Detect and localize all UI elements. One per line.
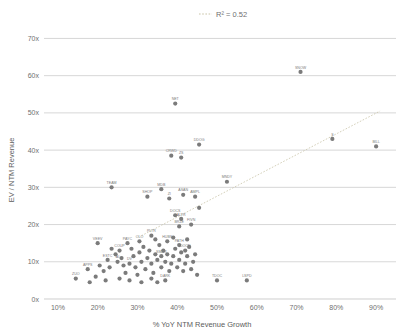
data-point[interactable]: [137, 250, 141, 254]
data-point[interactable]: [165, 239, 169, 243]
chart-canvas: 0x10x20x30x40x50x60x70x 10%20%30%40%50%6…: [0, 0, 404, 335]
data-point[interactable]: [108, 265, 112, 269]
data-point[interactable]: [159, 265, 163, 269]
data-point[interactable]: [169, 154, 173, 158]
data-point[interactable]: [151, 271, 155, 275]
x-axis-ticks: 10%20%30%40%50%60%70%80%90%: [51, 304, 383, 311]
data-point[interactable]: [137, 239, 141, 243]
data-point[interactable]: [195, 273, 199, 277]
data-point[interactable]: [169, 262, 173, 266]
data-point[interactable]: [374, 144, 378, 148]
data-point[interactable]: [298, 70, 302, 74]
data-point-label: MDB: [157, 183, 166, 187]
data-point[interactable]: [183, 249, 187, 253]
data-point[interactable]: [153, 252, 157, 256]
data-point[interactable]: [159, 187, 163, 191]
data-point[interactable]: [143, 267, 147, 271]
data-point[interactable]: [147, 249, 151, 253]
data-point[interactable]: [171, 254, 175, 258]
data-point[interactable]: [127, 262, 131, 266]
data-point[interactable]: [159, 254, 163, 258]
data-point[interactable]: [117, 249, 121, 253]
data-point[interactable]: [149, 262, 153, 266]
data-point[interactable]: [197, 206, 201, 210]
data-point-label: DARK: [160, 274, 171, 278]
grid-lines: [44, 38, 396, 299]
data-point[interactable]: [179, 155, 183, 159]
data-point[interactable]: [133, 265, 137, 269]
data-point[interactable]: [153, 237, 157, 241]
data-point[interactable]: [121, 263, 125, 267]
data-point[interactable]: [98, 263, 102, 267]
data-point[interactable]: [88, 280, 92, 284]
data-point-label: VEEV: [93, 237, 103, 241]
data-point[interactable]: [141, 245, 145, 249]
data-point-label: PLTR: [147, 229, 156, 233]
data-point[interactable]: [225, 180, 229, 184]
data-point[interactable]: [165, 252, 169, 256]
data-point[interactable]: [191, 260, 195, 264]
trendline: [141, 111, 380, 236]
data-point[interactable]: [106, 258, 110, 262]
data-point[interactable]: [102, 269, 106, 273]
y-tick-label: 60x: [28, 72, 40, 79]
data-point[interactable]: [149, 234, 153, 238]
data-point[interactable]: [145, 195, 149, 199]
data-point[interactable]: [175, 265, 179, 269]
data-point[interactable]: [145, 256, 149, 260]
data-point[interactable]: [167, 269, 171, 273]
data-point[interactable]: [149, 276, 153, 280]
data-point[interactable]: [155, 258, 159, 262]
data-point[interactable]: [245, 278, 249, 282]
data-point[interactable]: [185, 237, 189, 241]
data-point[interactable]: [197, 142, 201, 146]
data-point[interactable]: [127, 278, 131, 282]
data-point-label: COUP: [114, 244, 125, 248]
data-point[interactable]: [94, 275, 98, 279]
data-point[interactable]: [189, 267, 193, 271]
data-point[interactable]: [123, 271, 127, 275]
data-point[interactable]: [330, 137, 334, 141]
data-point-label: ASAN: [178, 188, 188, 192]
data-point[interactable]: [189, 222, 193, 226]
data-point[interactable]: [115, 260, 119, 264]
data-point[interactable]: [139, 280, 143, 284]
data-point-label: MNDY: [222, 175, 233, 179]
data-point[interactable]: [135, 273, 139, 277]
data-point[interactable]: [163, 278, 167, 282]
data-point[interactable]: [139, 260, 143, 264]
y-axis-title: EV / NTM Revenue: [7, 138, 16, 203]
data-point[interactable]: [179, 250, 183, 254]
data-point[interactable]: [181, 193, 185, 197]
data-point[interactable]: [96, 241, 100, 245]
data-point[interactable]: [125, 241, 129, 245]
data-point[interactable]: [86, 267, 90, 271]
data-point-label: PAYC: [123, 237, 133, 241]
data-point[interactable]: [171, 235, 175, 239]
data-point[interactable]: [193, 252, 197, 256]
data-point[interactable]: [157, 243, 161, 247]
data-point[interactable]: [187, 245, 191, 249]
data-point[interactable]: [129, 247, 133, 251]
data-point[interactable]: [74, 276, 78, 280]
data-point[interactable]: [113, 252, 117, 256]
data-point[interactable]: [109, 247, 113, 251]
data-point[interactable]: [119, 256, 123, 260]
data-point[interactable]: [155, 280, 159, 284]
data-point[interactable]: [185, 254, 189, 258]
data-point[interactable]: [173, 247, 177, 251]
data-point[interactable]: [173, 101, 177, 105]
data-point[interactable]: [193, 195, 197, 199]
data-point[interactable]: [181, 269, 185, 273]
data-point[interactable]: [183, 262, 187, 266]
data-point[interactable]: [161, 249, 165, 253]
data-point[interactable]: [109, 185, 113, 189]
data-point[interactable]: [177, 258, 181, 262]
data-point[interactable]: [215, 278, 219, 282]
data-point[interactable]: [167, 196, 171, 200]
data-point[interactable]: [117, 276, 121, 280]
data-point[interactable]: [177, 224, 181, 228]
data-point[interactable]: [163, 260, 167, 264]
data-point[interactable]: [104, 278, 108, 282]
data-point[interactable]: [131, 254, 135, 258]
